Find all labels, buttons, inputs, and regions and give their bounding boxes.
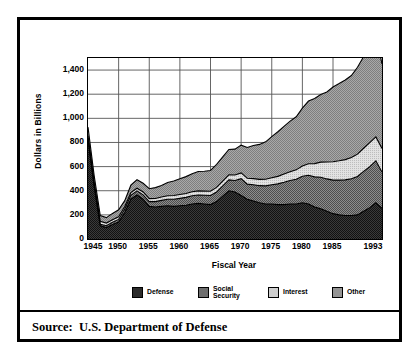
chart-region: Dollars in Billions 02004006008001,0001,… — [20, 20, 399, 297]
chart-figure-frame: Dollars in Billions 02004006008001,0001,… — [17, 17, 402, 342]
legend-swatch-interest — [268, 287, 279, 298]
x-axis-title: Fiscal Year — [87, 260, 381, 270]
legend-item-defense[interactable]: Defense — [132, 282, 173, 302]
chart-legend: DefenseSocial SecurityInterestOther — [20, 282, 399, 308]
x-tick-label: 1955 — [139, 241, 158, 251]
y-tick-label: 0 — [40, 233, 84, 243]
y-tick-label: 200 — [40, 209, 84, 219]
legend-item-other[interactable]: Other — [332, 282, 365, 302]
y-tick-label: 1,200 — [40, 88, 84, 98]
figure-inner: Dollars in Billions 02004006008001,0001,… — [20, 20, 399, 339]
legend-swatch-defense — [132, 287, 143, 298]
legend-swatch-other — [332, 287, 343, 298]
source-note: Source: U.S. Department of Defense — [32, 320, 227, 335]
x-tick-label: 1993 — [364, 241, 383, 251]
x-tick-label: 1985 — [323, 241, 342, 251]
x-tick-label: 1960 — [169, 241, 188, 251]
y-tick-label: 1,000 — [40, 112, 84, 122]
y-tick-label: 600 — [40, 161, 84, 171]
footer-divider — [20, 310, 399, 312]
x-tick-label: 1980 — [292, 241, 311, 251]
legend-label-social_security: Social Security — [213, 285, 240, 299]
y-axis-tick-labels: 02004006008001,0001,2001,400 — [34, 57, 84, 238]
x-tick-label: 1965 — [200, 241, 219, 251]
legend-label-defense: Defense — [147, 288, 173, 295]
x-tick-label: 1975 — [261, 241, 280, 251]
y-tick-label: 400 — [40, 185, 84, 195]
plot-area — [87, 57, 383, 240]
legend-item-social_security[interactable]: Social Security — [198, 282, 240, 302]
y-tick-label: 1,400 — [40, 64, 84, 74]
x-tick-label: 1945 — [84, 241, 103, 251]
legend-label-other: Other — [347, 288, 365, 295]
x-tick-label: 1950 — [108, 241, 127, 251]
x-axis-tick-labels: 1945195019551960196519701975198019851993 — [87, 241, 381, 255]
legend-label-interest: Interest — [283, 288, 308, 295]
legend-item-interest[interactable]: Interest — [268, 282, 308, 302]
legend-swatch-social_security — [198, 287, 209, 298]
y-tick-label: 800 — [40, 136, 84, 146]
stacked-area-plot — [88, 58, 382, 239]
x-tick-label: 1970 — [231, 241, 250, 251]
